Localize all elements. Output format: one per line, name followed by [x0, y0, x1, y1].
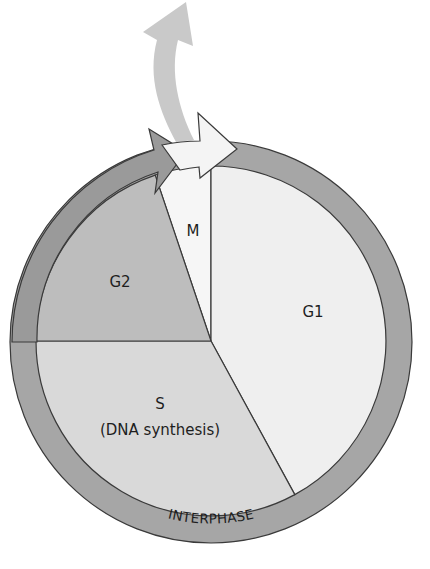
phase-label-g2: G2 — [109, 273, 130, 291]
cell-cycle-diagram: M G1 S (DNA synthesis) G2 INTERPHASE — [0, 0, 430, 569]
phase-label-g1: G1 — [302, 303, 323, 321]
phase-label-m: M — [187, 222, 200, 240]
phase-label-s: S — [155, 395, 165, 413]
phase-label-s-subtitle: (DNA synthesis) — [100, 421, 220, 439]
exit-arrow — [143, 2, 194, 142]
